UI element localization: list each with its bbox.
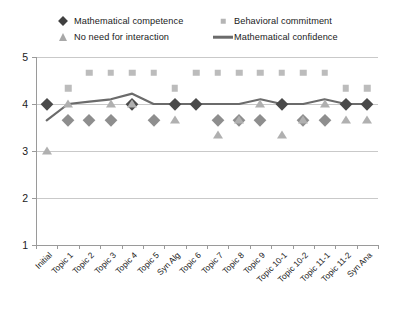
y-tick-mark	[32, 57, 36, 58]
y-tick-mark	[32, 151, 36, 152]
gridline	[36, 151, 378, 152]
chart-screenshot: Mathematical competence No need for inte…	[0, 0, 400, 310]
y-axis	[36, 57, 37, 246]
data-point-square	[86, 69, 93, 76]
y-tick-label: 1	[2, 239, 28, 251]
data-point-square	[193, 69, 200, 76]
x-tick-mark	[228, 245, 229, 249]
data-point-square	[257, 69, 264, 76]
data-point-square	[108, 69, 115, 76]
plot-region: 12345InitialTopic 1Topic 2Topic 3Topic 4…	[0, 0, 400, 310]
y-tick-mark	[32, 198, 36, 199]
data-point-square	[214, 69, 221, 76]
x-tick-mark	[164, 245, 165, 249]
data-point-square	[172, 85, 179, 92]
data-point-triangle	[42, 147, 52, 155]
data-point-square	[65, 85, 72, 92]
data-point-square	[129, 69, 136, 76]
data-point-triangle	[320, 100, 330, 108]
data-point-triangle	[106, 100, 116, 108]
y-tick-label: 3	[2, 145, 28, 157]
x-tick-mark	[271, 245, 272, 249]
y-tick-label: 5	[2, 51, 28, 63]
data-point-square	[300, 69, 307, 76]
x-tick-mark	[335, 245, 336, 249]
x-tick-mark	[122, 245, 123, 249]
x-tick-mark	[143, 245, 144, 249]
data-point-square	[236, 69, 243, 76]
x-tick-mark	[314, 245, 315, 249]
data-point-square	[150, 69, 157, 76]
y-tick-label: 2	[2, 192, 28, 204]
y-tick-mark	[32, 104, 36, 105]
data-point-triangle	[170, 115, 180, 123]
data-point-square	[364, 85, 371, 92]
x-tick-mark	[250, 245, 251, 249]
data-point-square	[343, 85, 350, 92]
data-point-triangle	[234, 115, 244, 123]
x-tick-mark	[207, 245, 208, 249]
x-tick-mark	[57, 245, 58, 249]
data-point-triangle	[341, 115, 351, 123]
x-tick-mark	[293, 245, 294, 249]
data-point-triangle	[127, 100, 137, 108]
data-point-triangle	[362, 115, 372, 123]
data-point-triangle	[255, 100, 265, 108]
x-tick-mark	[79, 245, 80, 249]
x-tick-mark	[186, 245, 187, 249]
x-tick-mark	[100, 245, 101, 249]
y-tick-label: 4	[2, 98, 28, 110]
x-tick-mark	[357, 245, 358, 249]
x-tick-mark	[36, 245, 37, 249]
gridline	[36, 57, 378, 58]
data-point-triangle	[298, 115, 308, 123]
data-point-triangle	[277, 131, 287, 139]
gridline	[36, 198, 378, 199]
plot-area	[36, 57, 378, 245]
data-point-triangle	[213, 131, 223, 139]
data-point-square	[321, 69, 328, 76]
data-point-triangle	[63, 100, 73, 108]
x-tick-mark	[378, 245, 379, 249]
data-point-square	[279, 69, 286, 76]
